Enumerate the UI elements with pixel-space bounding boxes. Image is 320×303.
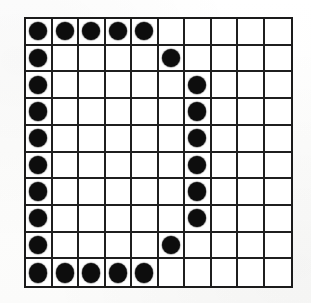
- grid-cell-r10-c10[interactable]: [265, 259, 292, 286]
- grid-cell-r2-c2[interactable]: [53, 46, 80, 73]
- grid-cell-r9-c1[interactable]: [26, 233, 53, 260]
- grid-cell-r3-c2[interactable]: [53, 72, 80, 99]
- grid-cell-r10-c7[interactable]: [185, 259, 212, 286]
- grid-cell-r1-c9[interactable]: [238, 19, 265, 46]
- grid-cell-r4-c3[interactable]: [79, 99, 106, 126]
- grid-cell-r10-c9[interactable]: [238, 259, 265, 286]
- grid-cell-r3-c8[interactable]: [212, 72, 239, 99]
- grid-cell-r8-c6[interactable]: [159, 206, 186, 233]
- grid-cell-r2-c8[interactable]: [212, 46, 239, 73]
- grid-cell-r10-c3[interactable]: [79, 259, 106, 286]
- grid-cell-r2-c6[interactable]: [159, 46, 186, 73]
- grid-cell-r1-c4[interactable]: [106, 19, 133, 46]
- grid-cell-r3-c7[interactable]: [185, 72, 212, 99]
- grid-cell-r4-c7[interactable]: [185, 99, 212, 126]
- grid-cell-r2-c7[interactable]: [185, 46, 212, 73]
- grid-cell-r9-c3[interactable]: [79, 233, 106, 260]
- grid-cell-r6-c7[interactable]: [185, 153, 212, 180]
- grid-cell-r4-c1[interactable]: [26, 99, 53, 126]
- grid-cell-r9-c7[interactable]: [185, 233, 212, 260]
- grid-cell-r5-c9[interactable]: [238, 126, 265, 153]
- grid-cell-r5-c4[interactable]: [106, 126, 133, 153]
- grid-cell-r7-c7[interactable]: [185, 179, 212, 206]
- grid-cell-r8-c2[interactable]: [53, 206, 80, 233]
- grid-cell-r2-c9[interactable]: [238, 46, 265, 73]
- grid-cell-r9-c6[interactable]: [159, 233, 186, 260]
- grid-cell-r8-c9[interactable]: [238, 206, 265, 233]
- grid-cell-r10-c5[interactable]: [132, 259, 159, 286]
- grid-cell-r10-c8[interactable]: [212, 259, 239, 286]
- grid-cell-r4-c9[interactable]: [238, 99, 265, 126]
- grid-cell-r6-c2[interactable]: [53, 153, 80, 180]
- grid-cell-r7-c10[interactable]: [265, 179, 292, 206]
- grid-cell-r1-c10[interactable]: [265, 19, 292, 46]
- grid-cell-r4-c5[interactable]: [132, 99, 159, 126]
- grid-cell-r2-c1[interactable]: [26, 46, 53, 73]
- grid-cell-r7-c2[interactable]: [53, 179, 80, 206]
- grid-cell-r5-c3[interactable]: [79, 126, 106, 153]
- grid-cell-r4-c2[interactable]: [53, 99, 80, 126]
- grid-cell-r3-c1[interactable]: [26, 72, 53, 99]
- grid-cell-r1-c5[interactable]: [132, 19, 159, 46]
- grid-cell-r8-c8[interactable]: [212, 206, 239, 233]
- grid-cell-r6-c3[interactable]: [79, 153, 106, 180]
- grid-cell-r5-c6[interactable]: [159, 126, 186, 153]
- grid-cell-r1-c1[interactable]: [26, 19, 53, 46]
- grid-cell-r8-c7[interactable]: [185, 206, 212, 233]
- grid-cell-r10-c6[interactable]: [159, 259, 186, 286]
- grid-cell-r7-c9[interactable]: [238, 179, 265, 206]
- grid-cell-r3-c6[interactable]: [159, 72, 186, 99]
- grid-cell-r3-c9[interactable]: [238, 72, 265, 99]
- grid-cell-r5-c10[interactable]: [265, 126, 292, 153]
- grid-cell-r9-c10[interactable]: [265, 233, 292, 260]
- grid-cell-r8-c4[interactable]: [106, 206, 133, 233]
- grid-cell-r4-c10[interactable]: [265, 99, 292, 126]
- grid-cell-r6-c10[interactable]: [265, 153, 292, 180]
- grid-cell-r5-c8[interactable]: [212, 126, 239, 153]
- grid-cell-r1-c6[interactable]: [159, 19, 186, 46]
- grid-cell-r10-c1[interactable]: [26, 259, 53, 286]
- grid-cell-r5-c1[interactable]: [26, 126, 53, 153]
- grid-cell-r9-c2[interactable]: [53, 233, 80, 260]
- grid-cell-r2-c5[interactable]: [132, 46, 159, 73]
- grid-cell-r6-c9[interactable]: [238, 153, 265, 180]
- grid-cell-r1-c2[interactable]: [53, 19, 80, 46]
- grid-cell-r10-c2[interactable]: [53, 259, 80, 286]
- dot-matrix-grid[interactable]: [24, 17, 293, 288]
- grid-cell-r1-c7[interactable]: [185, 19, 212, 46]
- grid-cell-r7-c5[interactable]: [132, 179, 159, 206]
- grid-cell-r9-c8[interactable]: [212, 233, 239, 260]
- grid-cell-r3-c10[interactable]: [265, 72, 292, 99]
- grid-cell-r7-c4[interactable]: [106, 179, 133, 206]
- grid-cell-r7-c3[interactable]: [79, 179, 106, 206]
- grid-cell-r6-c8[interactable]: [212, 153, 239, 180]
- grid-cell-r6-c1[interactable]: [26, 153, 53, 180]
- grid-cell-r9-c5[interactable]: [132, 233, 159, 260]
- grid-cell-r8-c3[interactable]: [79, 206, 106, 233]
- grid-cell-r10-c4[interactable]: [106, 259, 133, 286]
- grid-cell-r5-c2[interactable]: [53, 126, 80, 153]
- grid-cell-r1-c8[interactable]: [212, 19, 239, 46]
- grid-cell-r3-c4[interactable]: [106, 72, 133, 99]
- grid-cell-r6-c5[interactable]: [132, 153, 159, 180]
- grid-cell-r3-c5[interactable]: [132, 72, 159, 99]
- grid-cell-r7-c8[interactable]: [212, 179, 239, 206]
- grid-cell-r7-c1[interactable]: [26, 179, 53, 206]
- grid-cell-r6-c6[interactable]: [159, 153, 186, 180]
- grid-cell-r8-c10[interactable]: [265, 206, 292, 233]
- grid-cell-r2-c10[interactable]: [265, 46, 292, 73]
- grid-cell-r8-c1[interactable]: [26, 206, 53, 233]
- grid-cell-r4-c8[interactable]: [212, 99, 239, 126]
- grid-cell-r5-c7[interactable]: [185, 126, 212, 153]
- grid-cell-r8-c5[interactable]: [132, 206, 159, 233]
- grid-cell-r2-c4[interactable]: [106, 46, 133, 73]
- grid-cell-r6-c4[interactable]: [106, 153, 133, 180]
- grid-cell-r1-c3[interactable]: [79, 19, 106, 46]
- grid-cell-r9-c4[interactable]: [106, 233, 133, 260]
- grid-cell-r5-c5[interactable]: [132, 126, 159, 153]
- grid-cell-r4-c6[interactable]: [159, 99, 186, 126]
- grid-cell-r3-c3[interactable]: [79, 72, 106, 99]
- grid-cell-r4-c4[interactable]: [106, 99, 133, 126]
- grid-cell-r2-c3[interactable]: [79, 46, 106, 73]
- grid-cell-r9-c9[interactable]: [238, 233, 265, 260]
